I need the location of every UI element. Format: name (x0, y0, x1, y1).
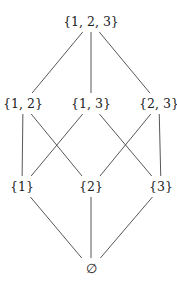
hasse-diagram: {1, 2, 3} {1, 2} {1, 3} {2, 3} {1} {2} {… (0, 0, 177, 292)
edge-3-empty (100, 197, 152, 258)
edge-1-empty (30, 197, 81, 258)
node-12: {1, 2} (3, 98, 43, 111)
node-13: {1, 3} (71, 98, 111, 111)
edge-12-1 (22, 114, 23, 176)
edge-123-23 (99, 32, 150, 93)
edges-layer (0, 0, 177, 292)
edge-23-3 (159, 114, 160, 176)
node-23: {2, 3} (139, 98, 177, 111)
node-123: {1, 2, 3} (63, 16, 119, 29)
node-3: {3} (149, 181, 173, 194)
node-2: {2} (79, 181, 103, 194)
node-empty: ∅ (86, 263, 97, 276)
edge-123-12 (32, 32, 83, 93)
node-1: {1} (10, 181, 34, 194)
